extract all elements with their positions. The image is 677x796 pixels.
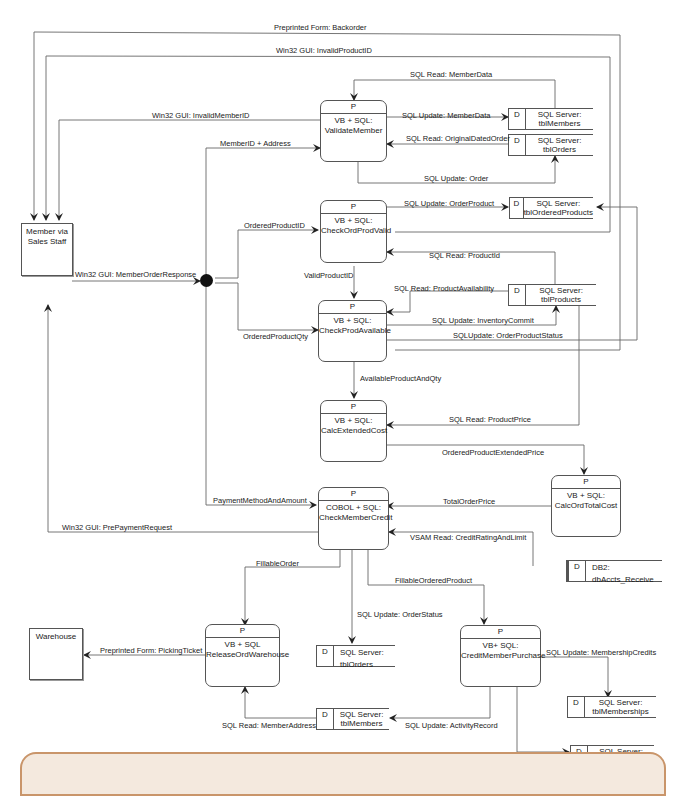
store-label: SQL Server: tblMemberships — [585, 697, 656, 717]
store-tbl-orders[interactable]: D SQL Server: tblOrders — [508, 134, 593, 156]
store-label: SQL Server: tblMembers — [334, 709, 389, 729]
flow-label-payment-method: PaymentMethodAndAmount — [213, 496, 307, 505]
process-label: VB + SQL: ValidateMember — [321, 114, 386, 136]
process-release-ord-warehouse[interactable]: P VB + SQL ReleaseOrdWarehouse — [205, 624, 280, 687]
process-label: VB + SQL: CalcExtendedCost — [321, 414, 386, 436]
flow-label-total-order-price: TotalOrderPrice — [443, 497, 495, 506]
process-label: VB + SQL ReleaseOrdWarehouse — [206, 638, 279, 660]
process-id: P — [461, 626, 540, 639]
flow-label-backorder: Preprinted Form: Backorder — [274, 23, 367, 32]
process-id: P — [321, 201, 386, 214]
process-id: P — [321, 401, 386, 414]
store-id: D — [569, 561, 586, 581]
flow-label-fillable-ordered-product: FillableOrderedProduct — [395, 576, 472, 585]
process-check-ord-prod-valid[interactable]: P VB + SQL: CheckOrdProdValid — [320, 200, 387, 263]
store-id: D — [509, 135, 526, 155]
store-label: SQL Server: tblOrderedProducts — [524, 198, 593, 218]
store-tbl-memberships[interactable]: D SQL Server: tblMemberships — [567, 696, 656, 718]
flow-label-ordered-product-qty: OrderedProductQty — [243, 332, 308, 341]
flow-label-picking-ticket: Preprinted Form: PickingTicket — [100, 646, 202, 655]
store-tbl-members-2[interactable]: D SQL Server: tblMembers — [316, 708, 389, 730]
process-label: VB+ SQL: CreditMemberPurchase — [461, 639, 540, 661]
store-tbl-products[interactable]: D SQL Server: tblProducts — [508, 284, 596, 306]
flow-label-order-status: SQL Update: OrderStatus — [357, 610, 443, 619]
flow-label-read-availability: SQL Read: ProductAvailability — [394, 284, 494, 293]
store-id: D — [317, 709, 334, 729]
flow-label-update-member-data: SQL Update: MemberData — [402, 111, 491, 120]
store-label: DB2: dbAccts_Receive — [586, 561, 662, 581]
flow-label-invalid-member: Win32 GUI: InvalidMemberID — [152, 111, 250, 120]
process-credit-member-purchase[interactable]: P VB+ SQL: CreditMemberPurchase — [460, 625, 541, 687]
external-member-via-sales-staff[interactable]: Member via Sales Staff — [21, 223, 73, 276]
process-id: P — [206, 625, 279, 638]
flow-label-read-product-id: SQL Read: ProductId — [429, 251, 500, 260]
process-calc-ord-total-cost[interactable]: P VB + SQL: CalcOrdTotalCost — [551, 475, 621, 537]
store-label: SQL Server: tblOrders — [334, 646, 395, 666]
store-tbl-orders-2[interactable]: D SQL Server: tblOrders — [316, 645, 395, 667]
process-id: P — [319, 488, 388, 501]
flow-label-inventory-commit: SQL Update: InventoryCommit — [432, 316, 534, 325]
flow-label-credit-rating: VSAM Read: CreditRatingAndLimit — [410, 533, 526, 542]
flow-label-ordered-product-id: OrderedProductID — [244, 221, 305, 230]
flow-label-member-address: MemberID + Address — [220, 139, 291, 148]
flow-label-update-order: SQL Update: Order — [424, 174, 488, 183]
process-id: P — [319, 301, 386, 314]
process-id: P — [552, 476, 620, 489]
store-tbl-ordered-products[interactable]: D SQL Server: tblOrderedProducts — [509, 197, 593, 219]
flow-label-read-product-price: SQL Read: ProductPrice — [449, 415, 531, 424]
process-check-member-credit[interactable]: P COBOL + SQL: CheckMemberCredit — [318, 487, 389, 550]
flow-label-invalid-product: Win32 GUI: InvalidProductID — [276, 46, 372, 55]
process-label: VB + SQL: CalcOrdTotalCost — [552, 489, 620, 511]
flow-label-read-member-data: SQL Read: MemberData — [410, 70, 492, 79]
flow-label-prepayment-request: Win32 GUI: PrePaymentRequest — [62, 523, 172, 532]
flow-label-read-member-address: SQL Read: MemberAddress — [222, 721, 316, 730]
external-label: Member via Sales Staff — [22, 224, 72, 247]
store-id: D — [509, 285, 526, 305]
process-calc-extended-cost[interactable]: P VB + SQL: CalcExtendedCost — [320, 400, 387, 462]
store-id: D — [317, 646, 334, 666]
store-tbl-members[interactable]: D SQL Server: tblMembers — [508, 108, 593, 130]
flow-label-member-order-response: Win32 GUI: MemberOrderResponse — [75, 270, 196, 279]
flow-label-activity-record: SQL Update: ActivityRecord — [405, 721, 498, 730]
flow-label-valid-product-id: ValidProductID — [304, 271, 353, 280]
flow-label-order-product-status: SQLUpdate: OrderProductStatus — [453, 331, 563, 340]
process-label: COBOL + SQL: CheckMemberCredit — [319, 501, 388, 523]
flow-label-fillable-order: FillableOrder — [256, 559, 299, 568]
flow-label-update-order-product: SQL Update: OrderProduct — [404, 199, 494, 208]
external-label: Warehouse — [30, 629, 82, 642]
process-validate-member[interactable]: P VB + SQL: ValidateMember — [320, 100, 387, 162]
page-footer-band — [20, 752, 666, 796]
flow-label-membership-credits: SQL Update: MembershipCredits — [546, 648, 656, 657]
store-id: D — [510, 198, 524, 218]
flow-label-read-original-order: SQL Read: OriginalDatedOrder — [406, 134, 510, 143]
process-label: VB + SQL: CheckOrdProdValid — [321, 214, 386, 236]
flow-label-available-product-qty: AvailableProductAndQty — [360, 374, 441, 383]
store-id: D — [509, 109, 526, 129]
process-check-prod-available[interactable]: P VB + SQL: CheckProdAvailable — [318, 300, 387, 362]
store-db-accts-receive[interactable]: D DB2: dbAccts_Receive — [566, 560, 662, 582]
store-label: SQL Server: tblMembers — [526, 109, 593, 129]
flow-junction — [200, 274, 213, 287]
store-label: SQL Server: tblOrders — [526, 135, 593, 155]
process-label: VB + SQL: CheckProdAvailable — [319, 314, 386, 336]
flow-label-extended-price: OrderedProductExtendedPrice — [442, 448, 544, 457]
store-id: D — [568, 697, 585, 717]
process-id: P — [321, 101, 386, 114]
store-label: SQL Server: tblProducts — [526, 285, 596, 305]
external-warehouse[interactable]: Warehouse — [29, 628, 83, 680]
